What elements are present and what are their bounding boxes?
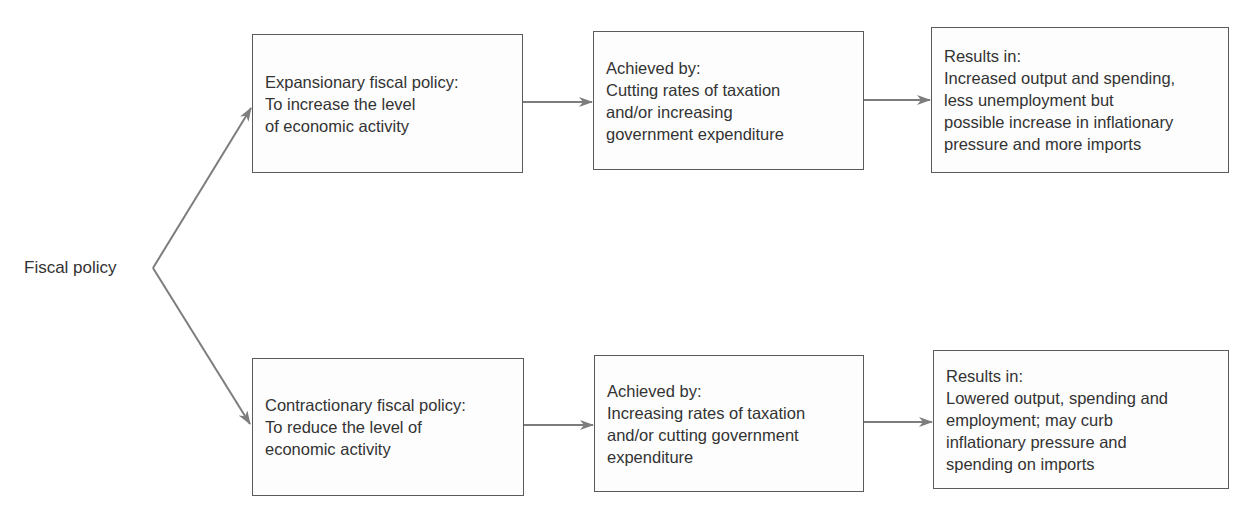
expansionary-achieved-box: Achieved by: Cutting rates of taxation a…: [593, 31, 864, 170]
box-line: Achieved by:: [606, 57, 851, 79]
box-line: Expansionary fiscal policy:: [265, 71, 510, 93]
box-line: Increased output and spending,: [944, 67, 1216, 89]
box-line: government expenditure: [606, 123, 851, 145]
box-line: Achieved by:: [607, 380, 851, 402]
box-line: To increase the level: [265, 93, 510, 115]
branch-arrow-expansionary: [153, 108, 251, 268]
box-line: inflationary pressure and: [946, 431, 1216, 453]
contractionary-results-box: Results in: Lowered output, spending and…: [933, 350, 1229, 489]
box-line: Cutting rates of taxation: [606, 79, 851, 101]
box-line: Lowered output, spending and: [946, 387, 1216, 409]
box-line: Contractionary fiscal policy:: [265, 394, 511, 416]
box-line: possible increase in inflationary: [944, 111, 1216, 133]
expansionary-policy-box: Expansionary fiscal policy: To increase …: [252, 34, 523, 173]
box-line: spending on imports: [946, 453, 1216, 475]
box-line: Results in:: [946, 365, 1216, 387]
box-line: To reduce the level of: [265, 416, 511, 438]
contractionary-policy-box: Contractionary fiscal policy: To reduce …: [252, 358, 524, 496]
expansionary-results-box: Results in: Increased output and spendin…: [931, 27, 1229, 173]
box-line: Increasing rates of taxation: [607, 402, 851, 424]
box-line: expenditure: [607, 446, 851, 468]
box-line: Results in:: [944, 45, 1216, 67]
box-line: and/or cutting government: [607, 424, 851, 446]
box-line: economic activity: [265, 438, 511, 460]
contractionary-achieved-box: Achieved by: Increasing rates of taxatio…: [594, 355, 864, 492]
box-line: less unemployment but: [944, 89, 1216, 111]
branch-arrow-contractionary: [153, 268, 250, 424]
root-node-fiscal-policy: Fiscal policy: [24, 258, 117, 278]
box-line: pressure and more imports: [944, 133, 1216, 155]
box-line: employment; may curb: [946, 409, 1216, 431]
box-line: of economic activity: [265, 115, 510, 137]
box-line: and/or increasing: [606, 101, 851, 123]
